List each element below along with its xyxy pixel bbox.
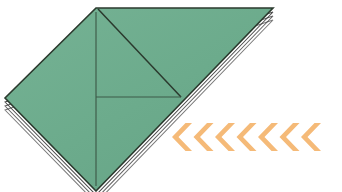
folded-paper-shape — [5, 8, 273, 191]
fold-arrow-chevron — [301, 123, 321, 151]
fold-arrow-chevron — [215, 123, 235, 151]
origami-diagram-canvas — [0, 0, 342, 192]
fold-arrow-chevron — [237, 123, 257, 151]
origami-diagram-figure — [0, 0, 342, 192]
fold-arrow-chevron — [172, 123, 192, 151]
fold-arrow-chevron — [258, 123, 278, 151]
fold-direction-arrows — [172, 123, 321, 151]
fold-arrow-chevron — [280, 123, 300, 151]
fold-arrow-chevron — [194, 123, 214, 151]
